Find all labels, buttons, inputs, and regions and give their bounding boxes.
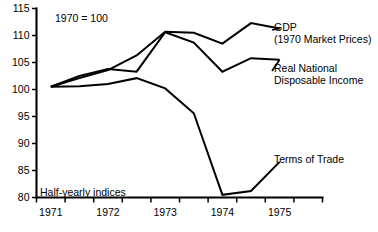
y-tick-label: 105 xyxy=(12,56,30,68)
y-tick-label: 80 xyxy=(18,191,30,203)
gdp-label-line1: GDP xyxy=(274,21,297,33)
y-tick-label: 95 xyxy=(18,110,30,122)
x-tick-label: 1971 xyxy=(39,206,63,218)
y-tick-label: 110 xyxy=(13,29,30,41)
y-tick-label: 85 xyxy=(18,164,30,176)
terms-of-trade-label: Terms of Trade xyxy=(274,153,344,165)
series-line-real-national-disposable-income xyxy=(51,32,280,87)
y-tick-label: 115 xyxy=(13,2,30,14)
x-tick-label: 1972 xyxy=(96,206,120,218)
chart-container: 8085909510010511011519711972197319741975… xyxy=(0,0,378,232)
gdp-label-line2: (1970 Market Prices) xyxy=(274,33,371,45)
x-tick-label: 1974 xyxy=(211,206,235,218)
rndi-label-line2: Disposable Income xyxy=(274,74,363,86)
rndi-label-line1: Real National xyxy=(274,62,337,74)
line-chart: 8085909510010511011519711972197319741975… xyxy=(0,0,378,232)
frequency-note: Half-yearly indices xyxy=(40,186,126,198)
y-tick-label: 90 xyxy=(18,137,30,149)
x-tick-label: 1975 xyxy=(268,206,292,218)
y-tick-label: 100 xyxy=(12,83,30,95)
x-tick-label: 1973 xyxy=(154,206,178,218)
series-line-terms-of-trade xyxy=(51,78,280,195)
base-year-note: 1970 = 100 xyxy=(55,12,108,24)
